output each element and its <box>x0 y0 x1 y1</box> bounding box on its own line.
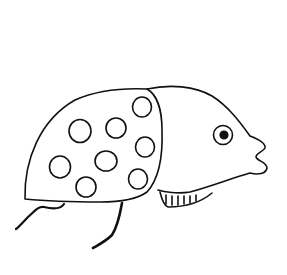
drawing-canvas <box>0 0 287 275</box>
eye-pupil <box>220 131 228 139</box>
